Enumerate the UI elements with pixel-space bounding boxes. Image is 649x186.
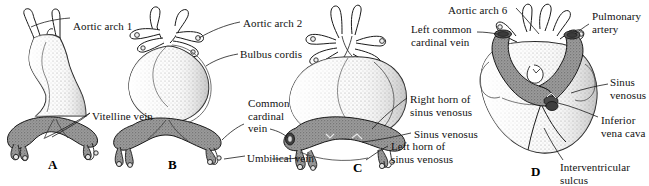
panel-letter-a: A bbox=[48, 157, 57, 173]
panel-c-artwork bbox=[270, 5, 411, 170]
label-common-cardinal-vein: Common cardinal vein bbox=[248, 97, 290, 135]
label-umbilical-vein: Umbilical vein bbox=[247, 152, 314, 165]
label-sinus-venosus-c: Sinus venosus bbox=[414, 128, 478, 141]
label-vitelline-vein: Vitelline vein bbox=[92, 110, 153, 123]
panel-letter-c: C bbox=[353, 160, 362, 176]
label-interventricular-sulcus: Interventricular sulcus bbox=[560, 161, 630, 186]
label-pulmonary-artery: Pulmonary artery bbox=[592, 10, 641, 35]
label-left-horn-of-sinus-venosus: Left horn of sinus venosus bbox=[391, 140, 453, 165]
label-aortic-arch-6: Aortic arch 6 bbox=[448, 4, 507, 17]
label-bulbus-cordis: Bulbus cordis bbox=[240, 48, 302, 61]
panel-letter-b: B bbox=[168, 157, 177, 173]
label-aortic-arch-2: Aortic arch 2 bbox=[243, 17, 302, 30]
label-left-common-cardinal-vein: Left common cardinal vein bbox=[411, 23, 472, 48]
embryonic-heart-development-figure: Aortic arch 1Vitelline veinAortic arch 2… bbox=[0, 0, 649, 186]
label-sinus-venosus-d: Sinus venosus bbox=[610, 76, 646, 101]
label-inferior-vena-cava: Inferior vena cava bbox=[601, 114, 646, 139]
panel-b-artwork bbox=[114, 7, 245, 168]
panel-letter-d: D bbox=[531, 164, 540, 180]
panel-d-artwork bbox=[477, 4, 608, 160]
label-aortic-arch-1: Aortic arch 1 bbox=[73, 20, 132, 33]
label-right-horn-of-sinus-venosus: Right horn of sinus venosus bbox=[410, 93, 472, 118]
